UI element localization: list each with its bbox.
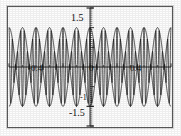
- figure-container: 1.5 -1.5 -1 -0.4 0 0.4: [0, 0, 181, 136]
- y-axis-top-label: 1.5: [71, 13, 84, 23]
- y-axis-minus-one-label: -1: [80, 93, 87, 103]
- x-axis-left-label: -0.4: [28, 63, 42, 73]
- x-axis-zero-label: 0: [89, 63, 94, 73]
- x-axis-right-label: 0.4: [130, 63, 141, 73]
- y-axis-bottom-label: -1.5: [69, 108, 85, 118]
